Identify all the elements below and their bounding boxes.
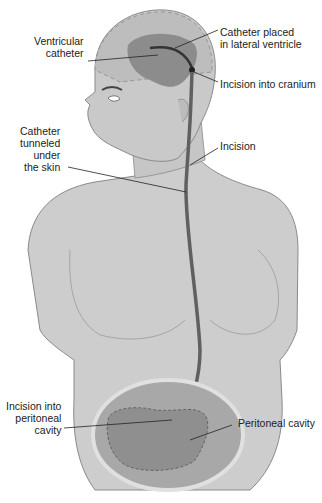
- label-incision-cranium: Incision into cranium: [220, 78, 316, 90]
- label-peritoneal-cavity: Peritoneal cavity: [238, 417, 315, 429]
- label-catheter-lateral-ventricle: Catheter placed in lateral ventricle: [220, 26, 302, 50]
- label-ventricular-catheter: Ventricular catheter: [34, 35, 84, 59]
- label-catheter-tunneled: Catheter tunneled under the skin: [20, 125, 60, 173]
- label-incision-peritoneal: Incision into peritoneal cavity: [6, 400, 61, 436]
- shunt-diagram: Ventricular catheter Catheter placed in …: [0, 0, 322, 503]
- label-incision-neck: Incision: [220, 140, 256, 152]
